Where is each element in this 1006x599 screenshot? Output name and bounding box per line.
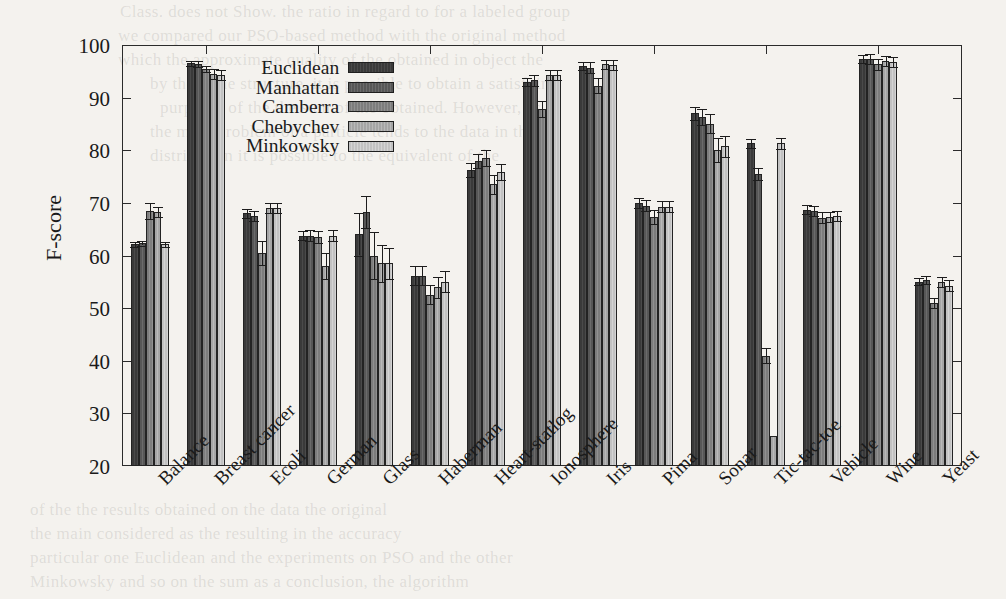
error-bar xyxy=(550,70,551,79)
bar xyxy=(146,211,154,466)
error-bar-cap-bottom xyxy=(585,73,595,74)
error-bar xyxy=(710,114,711,133)
error-bar xyxy=(590,62,591,73)
error-bar-cap-top xyxy=(825,212,835,213)
legend-item-label: Camberra xyxy=(262,97,339,117)
error-bar xyxy=(639,198,640,207)
error-bar-cap-top xyxy=(153,207,163,208)
error-bar-cap-bottom xyxy=(361,228,371,229)
error-bar-cap-top xyxy=(634,198,644,199)
bar xyxy=(915,282,923,466)
error-bar xyxy=(270,203,271,214)
bar xyxy=(243,213,251,466)
legend-item-label: Chebychev xyxy=(251,117,339,137)
bar xyxy=(154,212,162,466)
bar xyxy=(635,203,643,466)
error-bar xyxy=(326,253,327,279)
y-axis-tick-label: 30 xyxy=(52,402,110,427)
bar xyxy=(658,207,666,466)
error-bar-cap-top xyxy=(433,277,443,278)
error-bar-cap-top xyxy=(298,231,308,232)
bar xyxy=(329,236,337,466)
error-bar-cap-top xyxy=(608,60,618,61)
error-bar xyxy=(318,231,319,244)
legend-item-label: Manhattan xyxy=(256,78,339,98)
error-bar xyxy=(934,298,935,309)
error-bar xyxy=(221,70,222,81)
error-bar xyxy=(893,57,894,68)
bar xyxy=(546,75,554,466)
bar xyxy=(131,244,139,466)
error-bar xyxy=(583,62,584,70)
error-bar-cap-top xyxy=(473,154,483,155)
bar xyxy=(874,64,882,466)
legend: EuclideanManhattanCamberraChebychevMinko… xyxy=(246,58,394,156)
error-bar xyxy=(758,168,759,181)
error-bar-cap-top xyxy=(865,54,875,55)
bar xyxy=(475,161,483,466)
error-bar-cap-top xyxy=(944,280,954,281)
y-axis-tick-label: 20 xyxy=(52,455,110,480)
bar xyxy=(299,236,307,466)
x-axis-tick-mark xyxy=(766,45,767,54)
bar xyxy=(699,117,707,466)
legend-item-label: Minkowsky xyxy=(246,136,339,156)
error-bar-cap-top xyxy=(377,245,387,246)
bar xyxy=(889,62,897,466)
error-bar-cap-bottom xyxy=(160,247,170,248)
x-axis-tick-mark xyxy=(542,45,543,54)
error-bar-cap-bottom xyxy=(481,166,491,167)
error-bar-cap-top xyxy=(249,211,259,212)
bar xyxy=(538,109,546,466)
error-bar xyxy=(501,164,502,180)
error-bar-cap-bottom xyxy=(552,80,562,81)
error-bar xyxy=(366,196,367,228)
error-bar xyxy=(606,60,607,69)
x-axis-tick-mark xyxy=(654,45,655,54)
bar xyxy=(930,303,938,466)
bar xyxy=(523,82,531,466)
error-bar-cap-bottom xyxy=(193,67,203,68)
bar xyxy=(665,207,673,466)
error-bar xyxy=(214,69,215,78)
error-bar xyxy=(646,200,647,211)
error-bar xyxy=(807,205,808,214)
bar xyxy=(602,64,610,466)
error-bar-cap-bottom xyxy=(761,363,771,364)
bar xyxy=(859,59,867,466)
bar xyxy=(691,113,699,466)
y-axis-tick-label: 100 xyxy=(52,34,110,59)
error-bar xyxy=(942,277,943,288)
error-bar xyxy=(814,206,815,217)
legend-item: Manhattan xyxy=(246,78,394,98)
error-bar-cap-top xyxy=(937,277,947,278)
error-bar-cap-top xyxy=(690,107,700,108)
error-bar xyxy=(359,213,360,255)
error-bar-cap-top xyxy=(720,136,730,137)
error-bar xyxy=(382,245,383,282)
error-bar xyxy=(837,211,838,222)
error-bar-cap-bottom xyxy=(440,292,450,293)
error-bar-cap-bottom xyxy=(384,279,394,280)
bar xyxy=(307,236,315,466)
error-bar xyxy=(830,212,831,223)
bar xyxy=(945,286,953,467)
error-bar-cap-bottom xyxy=(705,133,715,134)
error-bar xyxy=(718,138,719,162)
error-bar xyxy=(527,78,528,86)
error-bar-cap-bottom xyxy=(720,157,730,158)
bar xyxy=(497,172,505,466)
error-bar xyxy=(486,150,487,166)
bar xyxy=(867,59,875,466)
bar xyxy=(755,174,763,466)
bar xyxy=(587,68,595,466)
error-bar xyxy=(158,207,159,216)
error-bar xyxy=(262,241,263,265)
bar xyxy=(747,143,755,466)
error-bar-cap-top xyxy=(145,203,155,204)
legend-item-swatch xyxy=(348,101,394,112)
bar xyxy=(643,206,651,466)
error-bar-cap-bottom xyxy=(832,221,842,222)
error-bar xyxy=(471,163,472,177)
error-bar xyxy=(422,266,423,285)
